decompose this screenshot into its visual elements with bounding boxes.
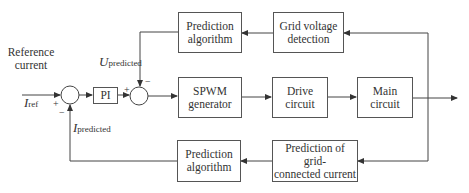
spwm-line2: generator — [188, 98, 231, 111]
sum1-plus-sign: + — [53, 98, 59, 109]
spwm-line1: SPWM — [188, 85, 231, 98]
u-predicted-symbol: U — [99, 54, 108, 69]
pred-current-line2: connected current — [273, 168, 357, 181]
reference-label-line1: Reference — [6, 46, 56, 59]
main-circuit-block: Maincircuit — [357, 77, 413, 118]
spwm-generator-block: SPWMgenerator — [178, 77, 242, 118]
drive-line2: circuit — [285, 98, 314, 111]
i-ref-label: Iref — [24, 96, 38, 111]
pred-current-line1: Prediction of grid- — [273, 142, 357, 168]
pred-bottom-line1: Prediction — [185, 148, 232, 161]
pi-label: PI — [100, 89, 110, 102]
u-predicted-label: Upredicted — [99, 55, 142, 70]
u-predicted-subscript: predicted — [108, 58, 141, 68]
pred-top-line1: Prediction — [186, 20, 233, 33]
pi-controller-block: PI — [93, 87, 118, 104]
sum1-minus-sign: − — [59, 107, 65, 118]
sum2-plus-sign: + — [124, 84, 130, 95]
main-line1: Main — [370, 85, 399, 98]
main-line2: circuit — [370, 98, 399, 111]
reference-current-label: Reference current — [6, 46, 56, 72]
prediction-algorithm-top-block: Predictionalgorithm — [178, 12, 242, 53]
grid-voltage-line2: detection — [280, 33, 338, 46]
reference-label-line2: current — [6, 59, 56, 72]
pred-bottom-line2: algorithm — [185, 161, 232, 174]
i-ref-subscript: ref — [28, 99, 38, 109]
drive-circuit-block: Drivecircuit — [272, 77, 328, 118]
prediction-grid-current-block: Prediction of grid-connected current — [272, 140, 358, 182]
pred-top-line2: algorithm — [186, 33, 233, 46]
i-predicted-subscript: predicted — [77, 124, 110, 134]
summing-junction-2 — [130, 87, 148, 105]
grid-voltage-line1: Grid voltage — [280, 20, 338, 33]
drive-line1: Drive — [285, 85, 314, 98]
summing-junction-1 — [61, 86, 79, 104]
i-predicted-label: Ipredicted — [73, 121, 111, 136]
sum2-minus-sign: − — [145, 76, 151, 87]
grid-voltage-detection-block: Grid voltagedetection — [273, 12, 344, 53]
prediction-algorithm-bottom-block: Predictionalgorithm — [177, 140, 241, 182]
